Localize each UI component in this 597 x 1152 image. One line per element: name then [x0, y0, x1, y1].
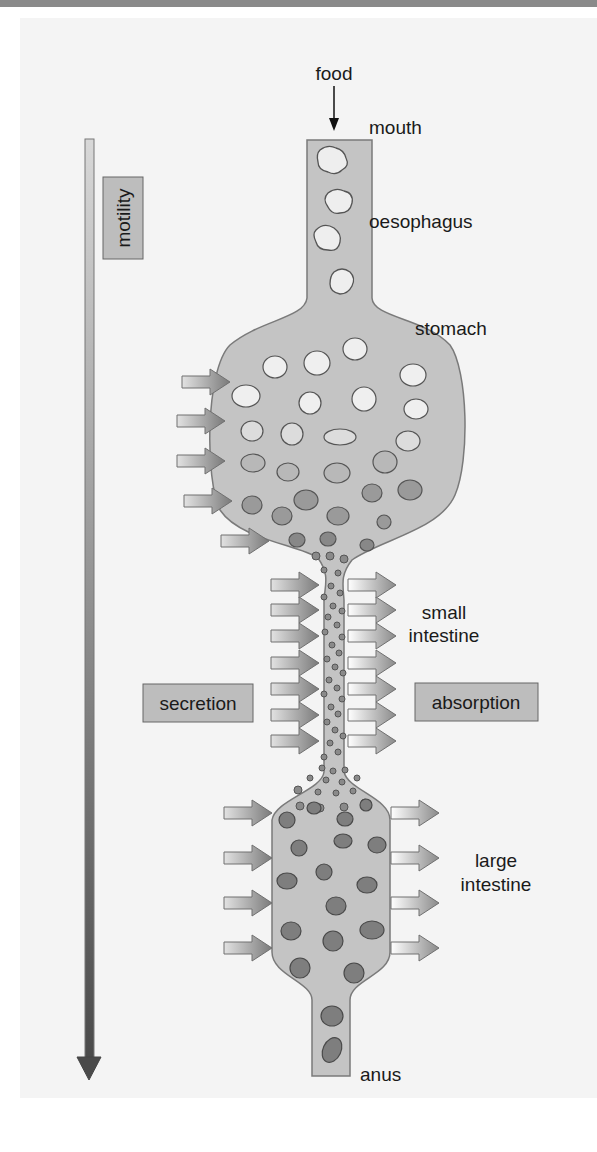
small-intestine-label-line2: intestine — [409, 625, 480, 646]
large-intestine-label-line2: intestine — [461, 874, 532, 895]
large-intestine-secretion-arrows — [224, 800, 272, 961]
oesophagus-label: oesophagus — [369, 211, 473, 232]
large-intestine-absorption-arrows — [391, 800, 439, 961]
food-arrow — [329, 86, 339, 131]
secretion-box: secretion — [143, 684, 253, 722]
small-intestine-secretion-arrows — [271, 572, 319, 754]
small-intestine-label-line1: small — [422, 602, 466, 623]
stomach-label: stomach — [415, 318, 487, 339]
digestive-tract-diagram: motility — [0, 0, 597, 1152]
mouth-label: mouth — [369, 117, 422, 138]
absorption-box: absorption — [415, 683, 538, 721]
motility-box: motility — [103, 177, 143, 259]
anus-label: anus — [360, 1064, 401, 1085]
motility-arrow — [77, 139, 101, 1080]
motility-label: motility — [113, 188, 134, 248]
large-intestine-label-line1: large — [475, 850, 517, 871]
small-intestine-absorption-arrows — [348, 572, 396, 754]
secretion-label: secretion — [159, 693, 236, 714]
food-label: food — [316, 63, 353, 84]
absorption-label: absorption — [432, 692, 521, 713]
